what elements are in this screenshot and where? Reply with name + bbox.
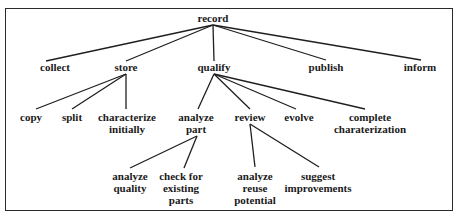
- node-qualify: qualify: [197, 61, 230, 73]
- node-label: improvements: [284, 182, 351, 194]
- tree-edges: [0, 0, 464, 216]
- tree-edge: [46, 25, 213, 61]
- node-label: evolve: [284, 111, 313, 123]
- node-copy: copy: [20, 111, 42, 123]
- node-label: characterize: [98, 111, 156, 123]
- node-record: record: [198, 12, 229, 24]
- node-evolve: evolve: [284, 111, 313, 123]
- node-label: reuse: [234, 182, 276, 194]
- tree-edge: [213, 25, 421, 60]
- node-label: copy: [20, 111, 42, 123]
- node-review: review: [235, 111, 266, 123]
- tree-edge: [214, 74, 296, 109]
- node-label: analyze: [234, 170, 276, 182]
- node-analyze-quality: analyzequality: [112, 170, 147, 194]
- node-analyze-reuse-potential: analyzereusepotential: [234, 170, 276, 206]
- tree-edge: [214, 74, 365, 109]
- node-label: suggest: [284, 170, 351, 182]
- node-label: review: [235, 111, 266, 123]
- node-label: publish: [309, 61, 344, 73]
- node-label: potential: [234, 194, 276, 206]
- node-label: check for: [159, 170, 203, 182]
- tree-edge: [213, 25, 214, 61]
- node-label: analyze: [112, 170, 147, 182]
- tree-edge: [213, 25, 326, 60]
- tree-edge: [198, 74, 214, 109]
- tree-edge: [250, 124, 255, 167]
- node-label: record: [198, 12, 229, 24]
- node-complete-charaterization: completecharaterization: [334, 111, 406, 135]
- node-label: part: [178, 123, 213, 135]
- node-characterize-initially: characterizeinitially: [98, 111, 156, 135]
- node-publish: publish: [309, 61, 344, 73]
- node-label: charaterization: [334, 123, 406, 135]
- tree-edge: [214, 74, 250, 109]
- node-suggest-improvements: suggestimprovements: [284, 170, 351, 194]
- node-store: store: [114, 61, 137, 73]
- node-label: quality: [112, 182, 147, 194]
- node-label: inform: [404, 61, 436, 73]
- node-inform: inform: [404, 61, 436, 73]
- node-split: split: [62, 111, 82, 123]
- node-label: qualify: [197, 61, 230, 73]
- node-analyze-part: analyzepart: [178, 111, 213, 135]
- node-label: parts: [159, 194, 203, 206]
- node-label: complete: [334, 111, 406, 123]
- node-label: analyze: [178, 111, 213, 123]
- node-label: collect: [40, 61, 70, 73]
- tree-edge: [130, 136, 197, 168]
- node-label: existing: [159, 182, 203, 194]
- node-label: store: [114, 61, 137, 73]
- node-label: initially: [98, 123, 156, 135]
- tree-edge: [250, 124, 319, 167]
- node-label: split: [62, 111, 82, 123]
- tree-edge: [126, 25, 213, 61]
- node-check-for-existing-parts: check forexistingparts: [159, 170, 203, 206]
- node-collect: collect: [40, 61, 70, 73]
